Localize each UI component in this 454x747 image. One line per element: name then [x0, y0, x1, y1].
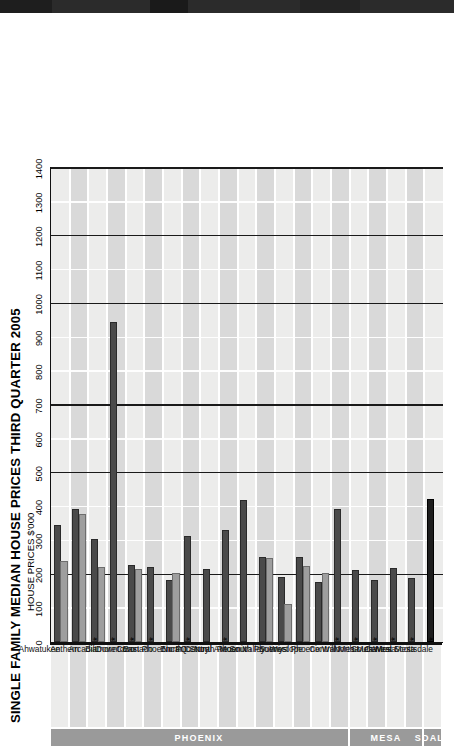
- category-asterisk: *: [391, 637, 401, 641]
- category-asterisk: *: [130, 637, 140, 641]
- category-label-lane: [331, 645, 348, 727]
- bar-south-phoenix-s2: [284, 604, 291, 642]
- gridline-minor-1300: [51, 201, 443, 202]
- bar-south-mesa-s1: [390, 568, 397, 642]
- bar-willo-s1: [334, 509, 341, 642]
- category-label-lane: [424, 645, 441, 727]
- category-asterisk: *: [354, 637, 364, 641]
- axis-tick-200: 200: [34, 568, 44, 584]
- axis-tick-1200: 1200: [34, 226, 44, 247]
- chart-title: SINGLE FAMILY MEDIAN HOUSE PRICES THIRD …: [8, 7, 23, 729]
- bar-north-central-ave-s1: [222, 530, 229, 642]
- bar-west-mesa-s1: [408, 578, 415, 642]
- bar-biltmore-s1: [110, 322, 117, 642]
- bar-ahwatukee-s2: [60, 561, 67, 642]
- axis-tick-1300: 1300: [34, 193, 44, 214]
- group-band-label: SDALE: [414, 732, 451, 742]
- category-asterisk: *: [429, 637, 439, 641]
- gridline-minor-1100: [51, 269, 443, 270]
- gridline-major-1000: [51, 303, 443, 304]
- gridline-major-1200: [51, 235, 443, 236]
- axis-tick-700: 700: [34, 398, 44, 414]
- axis-tick-500: 500: [34, 466, 44, 482]
- group-band-phoenix: PHOENIX: [50, 728, 349, 747]
- category-asterisk: *: [149, 637, 159, 641]
- group-band-mesa: MESA: [349, 728, 424, 747]
- category-label-central-scottsdale: Central Scottsdale: [365, 644, 433, 654]
- axis-tick-100: 100: [34, 601, 44, 617]
- category-label-lane: [312, 645, 329, 727]
- axis-tick-600: 600: [34, 432, 44, 448]
- category-asterisk: *: [373, 637, 383, 641]
- category-label-lane: [219, 645, 236, 727]
- page-scan-edge: [0, 0, 454, 13]
- group-band-label: PHOENIX: [175, 732, 224, 742]
- bar-west-phoenix-s2: [322, 573, 329, 642]
- category-label-lane: [238, 645, 255, 727]
- category-label-lane: [294, 645, 311, 727]
- bar-encanto-s1: [184, 536, 191, 642]
- bar-sunnyslope-s2: [303, 566, 310, 642]
- bar-fq-story-s1: [203, 569, 210, 642]
- category-label-lane: [387, 645, 404, 727]
- category-asterisk: *: [223, 637, 233, 641]
- category-asterisk: *: [111, 637, 121, 641]
- axis-tick-1100: 1100: [34, 261, 44, 281]
- category-label-lane: [107, 645, 124, 727]
- category-label-lane: [88, 645, 105, 727]
- chart-page: SINGLE FAMILY MEDIAN HOUSE PRICES THIRD …: [0, 13, 454, 729]
- bar-coronado-s1: [147, 567, 154, 642]
- category-label-lane: [350, 645, 367, 727]
- axis-tick-1000: 1000: [34, 294, 44, 315]
- bar-north-mesa-s1: [371, 580, 378, 642]
- axis-tick-1400: 1400: [34, 159, 44, 180]
- bar-central-mesa-s1: [352, 570, 359, 642]
- category-label-lane: [163, 645, 180, 727]
- bar-east-phoenix-s2: [172, 573, 179, 642]
- axis-tick-400: 400: [34, 500, 44, 516]
- category-asterisk: *: [186, 637, 196, 641]
- category-asterisk: *: [93, 637, 103, 641]
- bar-north-phoenix-s1: [240, 500, 247, 642]
- category-label-lane: [70, 645, 87, 727]
- category-label-lane: [51, 645, 68, 727]
- gridline-major-1400: [51, 167, 443, 168]
- bar-downtown-s2: [135, 569, 142, 642]
- category-label-lane: [182, 645, 199, 727]
- group-band-sdale: SDALE: [423, 728, 442, 747]
- axis-tick-800: 800: [34, 364, 44, 380]
- category-label-lane: [406, 645, 423, 727]
- bar-central-scottsdale-s1: [427, 499, 434, 642]
- category-label-lane: [368, 645, 385, 727]
- category-asterisk: *: [335, 637, 345, 641]
- category-label-lane: [126, 645, 143, 727]
- plot-area: [50, 167, 443, 643]
- bar-anthem-s2: [79, 514, 86, 642]
- axis-tick-300: 300: [34, 534, 44, 550]
- category-asterisk: *: [410, 637, 420, 641]
- axis-tick-900: 900: [34, 331, 44, 347]
- bar-moon-valley-s2: [266, 558, 273, 642]
- category-label-lane: [256, 645, 273, 727]
- category-label-lane: [200, 645, 217, 727]
- bar-arcadia-s2: [98, 567, 105, 642]
- category-label-lane: [275, 645, 292, 727]
- group-band-label: MESA: [371, 733, 402, 743]
- axis-baseline: [50, 643, 442, 645]
- category-label-lane: [144, 645, 161, 727]
